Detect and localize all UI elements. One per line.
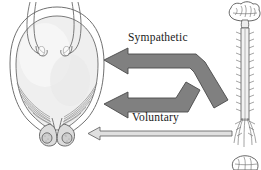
cns-group	[229, 2, 260, 170]
voluntary-label: Voluntary	[132, 111, 179, 123]
lower-brain-icon	[232, 156, 258, 170]
diagram-canvas	[0, 0, 261, 170]
voluntary-arrow	[88, 127, 232, 140]
cauda-equina	[234, 118, 256, 147]
brain-icon	[229, 2, 260, 28]
pathway-arrows-group	[104, 48, 228, 118]
spinal-cord	[236, 28, 254, 120]
bladder-innervation-figure: Sympathetic Voluntary	[0, 0, 261, 170]
bladder-group	[10, 2, 104, 146]
sympathetic-label: Sympathetic	[128, 31, 188, 43]
voluntary-arrow-group	[88, 127, 232, 140]
